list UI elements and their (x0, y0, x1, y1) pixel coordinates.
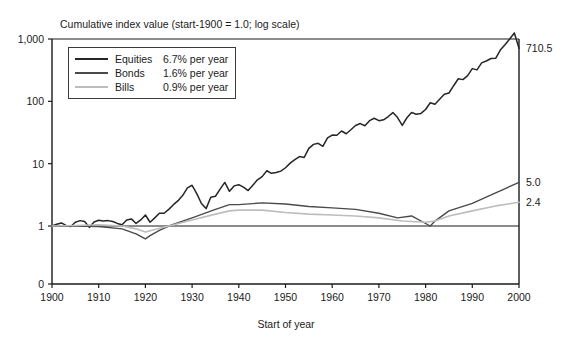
legend-swatch-bonds (75, 72, 108, 74)
x-tick-label: 1980 (404, 291, 448, 303)
series-line-bonds (52, 182, 519, 239)
x-tick-label: 1920 (123, 291, 167, 303)
chart-container: Cumulative index value (start-1900 = 1.0… (0, 0, 587, 340)
legend-label-equities: Equities (115, 53, 163, 65)
end-label-bonds: 5.0 (526, 176, 541, 188)
x-tick-label: 1970 (357, 291, 401, 303)
x-tick-label: 1990 (450, 291, 494, 303)
y-tick-label: 1,000 (0, 33, 44, 45)
legend-label-bonds: Bonds (115, 67, 163, 79)
y-tick-label: 1 (0, 220, 44, 232)
legend-rate-bills: 0.9% per year (163, 81, 228, 93)
x-tick-label: 1960 (310, 291, 354, 303)
legend-swatch-equities (75, 58, 108, 61)
end-label-bills: 2.4 (526, 196, 541, 208)
y-tick-label: 10 (0, 158, 44, 170)
x-tick-label: 1950 (264, 291, 308, 303)
legend-swatch-bills (75, 86, 108, 88)
legend-rate-bonds: 1.6% per year (163, 67, 228, 79)
x-tick-label: 1940 (217, 291, 261, 303)
x-tick-label: 2000 (497, 291, 541, 303)
y-tick-label: 0 (0, 278, 44, 290)
x-tick-label: 1930 (170, 291, 214, 303)
x-tick-label: 1910 (77, 291, 121, 303)
legend-item: Bonds 1.6% per year (75, 66, 228, 80)
chart-legend: Equities 6.7% per year Bonds 1.6% per ye… (68, 47, 236, 99)
x-tick-label: 1900 (30, 291, 74, 303)
series-line-bills (52, 202, 519, 232)
legend-label-bills: Bills (115, 81, 163, 93)
x-axis-title: Start of year (186, 318, 386, 330)
y-tick-label: 100 (0, 95, 44, 107)
end-label-equities: 710.5 (526, 42, 552, 54)
legend-item: Bills 0.9% per year (75, 80, 228, 94)
legend-rate-equities: 6.7% per year (163, 53, 228, 65)
legend-item: Equities 6.7% per year (75, 52, 228, 66)
